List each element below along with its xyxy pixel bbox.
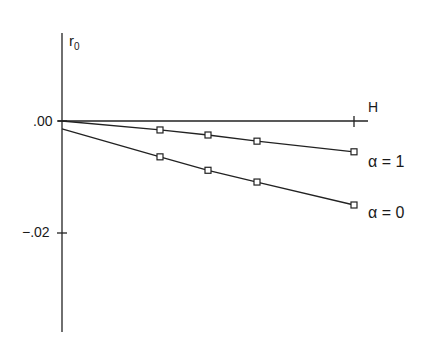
series-label-alpha0: α = 0 xyxy=(368,205,404,221)
y-tick-label-neg02: −.02 xyxy=(22,225,50,239)
square-marker-icon xyxy=(157,154,163,160)
y-tick-label-zero: .00 xyxy=(33,114,52,128)
square-marker-icon xyxy=(205,167,211,173)
square-marker-icon xyxy=(351,149,357,155)
y-axis-label-sub: 0 xyxy=(74,41,80,52)
series-label-alpha1: α = 1 xyxy=(368,154,404,170)
chart-plot xyxy=(0,0,436,351)
square-marker-icon xyxy=(254,138,260,144)
square-marker-icon xyxy=(351,202,357,208)
square-marker-icon xyxy=(254,179,260,185)
x-axis-label: H xyxy=(368,100,378,114)
square-marker-icon xyxy=(205,132,211,138)
y-axis-label: r0 xyxy=(69,33,80,52)
square-marker-icon xyxy=(157,127,163,133)
